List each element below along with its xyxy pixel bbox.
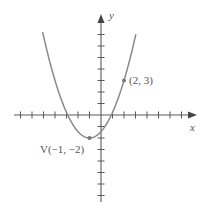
y-axis-label: y <box>108 9 114 21</box>
parabola-graph: y x (2, 3) V(−1, −2) <box>0 0 209 218</box>
vertex-point <box>88 136 92 140</box>
y-axis <box>98 14 105 202</box>
x-axis-label: x <box>189 121 195 133</box>
parabola-curve <box>43 32 136 138</box>
point-2-3 <box>122 79 126 83</box>
point-label: (2, 3) <box>129 74 153 87</box>
x-axis <box>14 112 197 119</box>
vertex-label: V(−1, −2) <box>40 143 85 156</box>
